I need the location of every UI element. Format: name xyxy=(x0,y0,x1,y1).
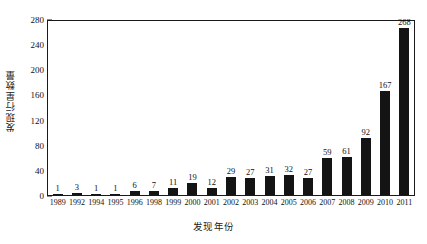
bar-value-label: 92 xyxy=(362,128,371,137)
bar-item: 1 xyxy=(110,21,120,195)
bar-rect xyxy=(361,138,371,195)
bar-rect xyxy=(130,191,140,195)
bar-rect xyxy=(168,188,178,195)
x-axis-tick-label: 1998 xyxy=(146,199,162,207)
x-axis-tick-label: 1995 xyxy=(107,199,123,207)
x-axis-tick-label: 2001 xyxy=(204,199,220,207)
bar-value-label: 27 xyxy=(246,168,255,177)
bar-value-label: 11 xyxy=(169,178,177,187)
x-axis-tick-label: 2007 xyxy=(319,199,335,207)
x-axis-tick-label: 2011 xyxy=(397,199,413,207)
y-axis-tick-label: 120 xyxy=(31,116,45,125)
bar-value-label: 12 xyxy=(207,178,216,187)
bar-value-label: 31 xyxy=(265,166,274,175)
bar-rect xyxy=(380,91,390,195)
bar-value-label: 6 xyxy=(133,181,137,190)
bar-rect xyxy=(342,157,352,195)
x-axis-tick-labels: 1989199219941995199619981999200020012002… xyxy=(48,199,414,213)
y-axis-tick-label: 40 xyxy=(35,166,44,175)
x-axis-tick-label: 1999 xyxy=(165,199,181,207)
bar-rect xyxy=(110,194,120,196)
x-axis-tick-label: 2004 xyxy=(262,199,278,207)
bar-rect xyxy=(53,194,63,196)
bar-rect xyxy=(91,194,101,196)
bar-item: 92 xyxy=(361,21,371,195)
x-axis-tick-label: 1989 xyxy=(50,199,66,207)
bar-rect xyxy=(265,176,275,195)
bar-item: 11 xyxy=(168,21,178,195)
bar-item: 167 xyxy=(380,21,390,195)
bar-value-label: 27 xyxy=(304,168,313,177)
x-axis-title: 发现年份 xyxy=(0,219,427,233)
x-axis-tick-label: 2003 xyxy=(242,199,258,207)
x-axis-tick-label: 2002 xyxy=(223,199,239,207)
y-axis-tick-label: 80 xyxy=(35,141,44,150)
bar-rect xyxy=(399,28,409,195)
bar-value-label: 19 xyxy=(188,173,197,182)
bar-value-label: 59 xyxy=(323,148,332,157)
x-axis-tick-label: 2008 xyxy=(339,199,355,207)
x-axis-tick-label: 1996 xyxy=(127,199,143,207)
bar-rect xyxy=(303,178,313,195)
y-axis-tick-labels: 04080120160200240280 xyxy=(18,20,44,196)
bar-rect xyxy=(72,193,82,195)
y-axis-tick-label: 280 xyxy=(31,16,45,25)
x-axis-tick-label: 2010 xyxy=(377,199,393,207)
bar-value-label: 29 xyxy=(227,167,236,176)
y-axis-title-text: 发现行星数量 xyxy=(4,69,18,132)
y-axis-tick-label: 240 xyxy=(31,41,45,50)
bar-item: 32 xyxy=(284,21,294,195)
bar-series-layer: 1311671119122927313227596192167268 xyxy=(48,21,414,195)
x-axis-tick-label: 2006 xyxy=(300,199,316,207)
bar-value-label: 1 xyxy=(113,184,117,193)
x-axis-tick-label: 2000 xyxy=(184,199,200,207)
bar-rect xyxy=(187,183,197,195)
y-axis-tick-label: 0 xyxy=(40,192,45,201)
bar-item: 59 xyxy=(322,21,332,195)
bar-item: 27 xyxy=(303,21,313,195)
bar-item: 29 xyxy=(226,21,236,195)
bar-item: 1 xyxy=(53,21,63,195)
bar-item: 12 xyxy=(207,21,217,195)
bar-item: 3 xyxy=(72,21,82,195)
bar-item: 268 xyxy=(399,21,409,195)
bar-value-label: 32 xyxy=(285,165,294,174)
bar-item: 19 xyxy=(187,21,197,195)
planet-discovery-bar-chart: 发现行星数量 04080120160200240280 131167111912… xyxy=(0,0,427,244)
bar-item: 31 xyxy=(265,21,275,195)
bar-item: 6 xyxy=(130,21,140,195)
bar-rect xyxy=(149,191,159,195)
bar-value-label: 1 xyxy=(94,184,98,193)
bar-value-label: 61 xyxy=(342,147,351,156)
bar-item: 61 xyxy=(342,21,352,195)
bar-item: 7 xyxy=(149,21,159,195)
bar-rect xyxy=(207,188,217,195)
bar-value-label: 1 xyxy=(55,184,59,193)
bar-item: 27 xyxy=(245,21,255,195)
bar-rect xyxy=(284,175,294,195)
bar-rect xyxy=(245,178,255,195)
bar-value-label: 167 xyxy=(379,81,392,90)
x-axis-tick-label: 2009 xyxy=(358,199,374,207)
x-axis-tick-label: 1994 xyxy=(88,199,104,207)
bar-value-label: 268 xyxy=(398,18,411,27)
x-axis-tick-label: 2005 xyxy=(281,199,297,207)
bar-value-label: 7 xyxy=(152,181,156,190)
y-axis-tick-label: 200 xyxy=(31,66,45,75)
bar-item: 1 xyxy=(91,21,101,195)
bar-rect xyxy=(226,177,236,195)
x-axis-tick-label: 1992 xyxy=(69,199,85,207)
y-axis-tick-label: 160 xyxy=(31,91,45,100)
bar-value-label: 3 xyxy=(75,183,79,192)
bar-rect xyxy=(322,158,332,195)
